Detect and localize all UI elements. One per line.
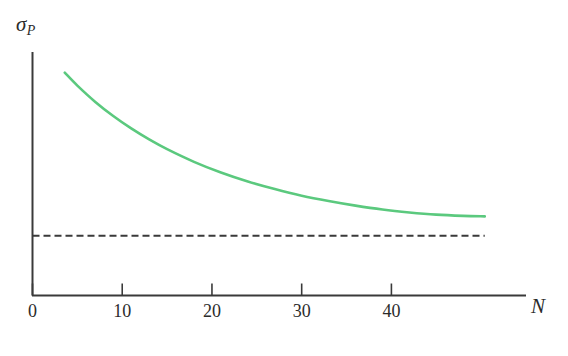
chart-figure: σP N 010203040	[0, 0, 568, 356]
x-axis-tick-label: 20	[192, 302, 232, 320]
x-axis-tick-label: 0	[13, 302, 53, 320]
axis-lines	[32, 52, 526, 296]
x-axis-tick-label: 10	[102, 302, 142, 320]
x-axis-ticks	[33, 284, 392, 296]
x-axis-tick-label: 40	[371, 302, 411, 320]
risk-curve	[65, 73, 485, 217]
x-axis-tick-label: 30	[282, 302, 322, 320]
